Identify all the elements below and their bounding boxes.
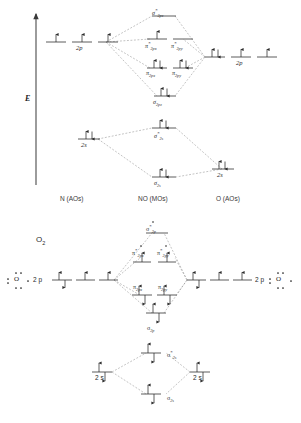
mo-diagram-figure: E 2p 2s 2p 2s σ*2pz π*2px π*2py π2px π2p… bbox=[0, 0, 301, 423]
electrons-pi-2py bbox=[180, 61, 186, 69]
label-o-2s: 2s bbox=[217, 172, 223, 179]
electrons-o-2s bbox=[219, 162, 225, 170]
electrons-n-2s bbox=[86, 132, 92, 140]
label-n-2p: 2p bbox=[76, 45, 83, 52]
o2-label-sigma-2p: σ2p bbox=[147, 325, 154, 333]
o2-label-sigma-2s: σ2s bbox=[167, 395, 174, 403]
sub-2p: 2p bbox=[150, 328, 154, 333]
label-pi-2py-star: π*2py bbox=[171, 41, 183, 51]
sub-x: x bbox=[140, 287, 142, 292]
sub-2p: 2p bbox=[152, 229, 156, 234]
sub-x: x bbox=[142, 253, 144, 258]
sub-2s: 2s bbox=[173, 355, 177, 360]
column-header-right: O (AOs) bbox=[216, 196, 240, 203]
o2-label-sigma-2s-star: σ*2s bbox=[167, 350, 176, 360]
o2-label-pi-2px: π2px bbox=[133, 284, 142, 292]
sub-2s: 2s bbox=[159, 136, 163, 141]
label-sigma-2s-star: σ*2s bbox=[154, 131, 163, 141]
sub-y: y bbox=[167, 253, 169, 258]
o2-label-pi-2px-star: π*2px bbox=[132, 248, 144, 258]
o2-label-pi-2py: π2py bbox=[158, 284, 167, 292]
lewis-left-atom-symbol: O bbox=[14, 276, 19, 283]
o2-label-left-2p: 2 p bbox=[33, 277, 42, 284]
label-sigma-2pz: σ2pz bbox=[153, 99, 162, 107]
diagram-vector-layer bbox=[0, 0, 301, 423]
correlation-lines-o2-2s bbox=[112, 353, 190, 394]
correlation-lines-no bbox=[98, 16, 222, 177]
label-pi-2py: π2py bbox=[172, 70, 181, 78]
electrons-o-2p bbox=[212, 50, 267, 58]
column-header-left: N (AOs) bbox=[60, 196, 83, 203]
o2-diagram-title: O2 bbox=[36, 236, 45, 246]
sub-x: x bbox=[153, 73, 155, 78]
o2-count: 2 bbox=[42, 240, 45, 246]
o2-label-right-2p: 2 p bbox=[255, 277, 264, 284]
label-sigma-2s: σ2s bbox=[154, 180, 161, 188]
sub-2s: 2s bbox=[157, 183, 161, 188]
electrons-sigma-2s-star bbox=[160, 121, 166, 129]
energy-axis-label: E bbox=[25, 95, 30, 103]
correlation-lines-o2-2p bbox=[114, 233, 187, 313]
sub-y: y bbox=[181, 46, 183, 51]
label-pi-2px-star: π*2px bbox=[145, 41, 157, 51]
label-o-2p: 2p bbox=[236, 60, 243, 67]
sub-y: y bbox=[179, 73, 181, 78]
label-pi-2px: π2px bbox=[146, 70, 155, 78]
electrons-pi-2px bbox=[154, 61, 160, 69]
sub-2s: 2s bbox=[170, 398, 174, 403]
o2-label-sigma-2p-star: σ*2p bbox=[146, 224, 156, 234]
electrons-n-2p bbox=[56, 35, 108, 43]
o2-label-pi-2py-star: π*2py bbox=[157, 248, 169, 258]
label-sigma-2pz-star: σ*2pz bbox=[152, 8, 163, 18]
electrons-sigma-2s bbox=[160, 170, 166, 178]
sub-x: x bbox=[155, 46, 157, 51]
o2-label-right-2s: 2 s bbox=[193, 375, 202, 382]
label-n-2s: 2s bbox=[81, 142, 87, 149]
electrons-sigma-2pz bbox=[161, 89, 167, 97]
lewis-right-atom-symbol: O bbox=[276, 276, 281, 283]
sub-y: y bbox=[165, 287, 167, 292]
sub-z: z bbox=[162, 13, 164, 18]
column-header-middle: NO (MOs) bbox=[138, 196, 168, 203]
o2-label-left-2s: 2 s bbox=[95, 375, 104, 382]
sub-z: z bbox=[160, 102, 162, 107]
